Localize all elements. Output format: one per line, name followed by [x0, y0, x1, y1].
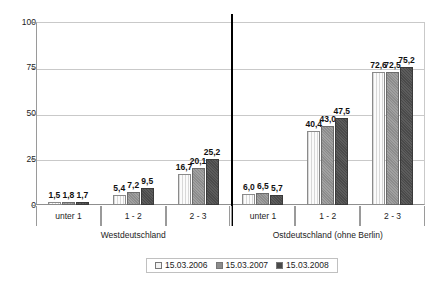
bar-value-label: 25,2 — [201, 148, 224, 157]
legend-item: 15.03.2007 — [216, 261, 269, 270]
bar — [178, 174, 191, 205]
y-axis: 0255075100 — [0, 0, 36, 227]
category-label: 1 - 2 — [295, 206, 360, 226]
bar — [127, 192, 140, 205]
legend-label: 15.03.2008 — [286, 261, 329, 270]
legend-label: 15.03.2006 — [165, 261, 208, 270]
bar — [386, 72, 399, 205]
region-label: Ostdeutschland (ohne Berlin) — [231, 227, 426, 243]
bar-value-label: 5,7 — [265, 184, 288, 193]
bar-chart: 0255075100 1,51,81,75,47,29,516,720,125,… — [0, 0, 441, 283]
category-label: 1 - 2 — [101, 206, 166, 226]
legend-swatch — [276, 262, 283, 269]
bar — [113, 195, 126, 205]
legend-swatch — [216, 262, 223, 269]
legend-item: 15.03.2008 — [276, 261, 329, 270]
bar — [256, 193, 269, 205]
bar-value-label: 1,7 — [71, 191, 94, 200]
region-label: Westdeutschland — [36, 227, 231, 243]
bar — [400, 67, 413, 205]
legend-item: 15.03.2006 — [155, 261, 208, 270]
bar — [372, 72, 385, 205]
legend-label: 15.03.2007 — [226, 261, 269, 270]
category-label: 2 - 3 — [166, 206, 231, 226]
category-label: 2 - 3 — [360, 206, 425, 226]
bar — [270, 195, 283, 205]
category-label: unter 1 — [231, 206, 296, 226]
legend: 15.03.200615.03.200715.03.2008 — [146, 258, 338, 273]
bar — [321, 126, 334, 205]
bar — [192, 168, 205, 205]
bar — [242, 194, 255, 205]
bar — [335, 118, 348, 205]
bar-value-label: 75,2 — [395, 56, 418, 65]
category-label: unter 1 — [36, 206, 101, 226]
bar — [62, 202, 75, 205]
bar — [307, 131, 320, 205]
bar — [76, 202, 89, 205]
bar — [48, 202, 61, 205]
region-divider — [231, 14, 233, 226]
bar-value-label: 9,5 — [136, 177, 159, 186]
bar — [141, 188, 154, 205]
legend-swatch — [155, 262, 162, 269]
bar — [206, 159, 219, 205]
bar-value-label: 47,5 — [330, 107, 353, 116]
